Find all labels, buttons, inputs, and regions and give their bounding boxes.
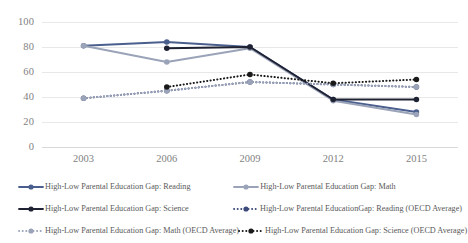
y-axis-tick-label: 100 [4,17,34,28]
y-axis-tick-label: 20 [4,117,34,128]
legend-item[interactable]: High-Low Parental Education Gap: Science [10,198,233,220]
legend-item[interactable]: High-Low Parental Education Gap: Math (O… [10,220,238,242]
legend-item[interactable]: High-Low Parental Education Gap: Reading [10,176,233,198]
legend-row: High-Low Parental Education Gap: Math (O… [10,220,462,242]
x-axis-tick-label: 2009 [215,154,285,165]
chart-container: 020406080100 20032006200920122015 High-L… [0,0,468,243]
data-point-marker [330,80,336,86]
x-axis-tick-label: 2003 [49,154,119,165]
legend-item[interactable]: High-Low Parental Education Gap: Science… [238,220,467,242]
y-axis-tick-label: 80 [4,42,34,53]
y-axis-tick-label: 40 [4,92,34,103]
data-point-marker [247,72,253,78]
data-point-marker [164,39,170,45]
data-point-marker [164,59,170,65]
legend-swatch [233,203,259,215]
x-axis-tick-label: 2012 [298,154,368,165]
data-point-marker [247,79,253,85]
y-axis-tick-label: 0 [4,142,34,153]
legend-item[interactable]: High-Low Parental EducationGap: Reading … [233,198,462,220]
chart-plot-svg [0,0,468,170]
legend-item-label: High-Low Parental Education Gap: Reading [45,182,191,191]
x-axis-tick-label: 2015 [381,154,451,165]
data-point-marker [414,77,420,83]
legend-item-label: High-Low Parental EducationGap: Reading … [260,204,462,213]
legend-item-label: High-Low Parental Education Gap: Math [260,182,396,191]
legend-item[interactable]: High-Low Parental Education Gap: Math [233,176,462,198]
legend-swatch [18,181,44,193]
data-point-marker [81,43,87,49]
data-point-marker [164,45,170,51]
data-point-marker [81,95,87,101]
data-point-marker [414,84,420,90]
data-point-marker [164,84,170,90]
legend-item-label: High-Low Parental Education Gap: Science… [265,226,467,235]
legend-item-label: High-Low Parental Education Gap: Science [45,204,189,213]
data-point-marker [247,44,253,50]
data-point-marker [414,112,420,118]
legend-swatch [18,225,44,237]
data-point-marker [414,97,420,103]
legend-row: High-Low Parental Education Gap: Science… [10,198,462,220]
data-point-marker [330,97,336,103]
x-axis-tick-label: 2006 [132,154,202,165]
plot-area: 020406080100 20032006200920122015 [0,0,468,170]
legend-swatch [238,225,264,237]
legend-item-label: High-Low Parental Education Gap: Math (O… [45,226,239,235]
chart-legend: High-Low Parental Education Gap: Reading… [0,172,468,243]
legend-swatch [18,203,44,215]
legend-swatch [233,181,259,193]
legend-row: High-Low Parental Education Gap: Reading… [10,176,462,198]
y-axis-tick-label: 60 [4,67,34,78]
